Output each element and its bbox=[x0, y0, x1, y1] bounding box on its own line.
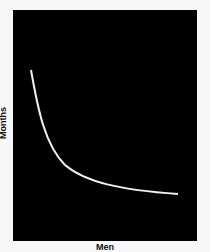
x-axis-label: Men bbox=[0, 242, 210, 252]
curve bbox=[0, 0, 210, 252]
y-axis-label: Months bbox=[0, 103, 8, 143]
